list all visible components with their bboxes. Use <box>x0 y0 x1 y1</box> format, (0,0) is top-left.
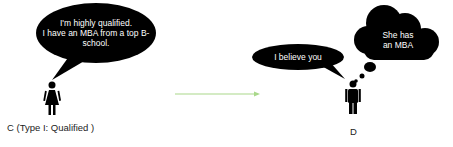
man-icon <box>345 81 361 115</box>
speech-text-c: I'm highly qualified. I have an MBA from… <box>40 18 152 48</box>
woman-icon <box>43 82 61 116</box>
label-c: C (Type I: Qualified ) <box>7 122 94 133</box>
speech-text-d: I believe you <box>254 52 342 62</box>
arrow-right-icon <box>175 92 260 97</box>
label-d: D <box>350 126 357 137</box>
speech-line: I'm highly qualified. <box>40 18 152 28</box>
thought-line: She has <box>370 30 426 40</box>
thought-line: an MBA <box>370 40 426 50</box>
speech-line: school. <box>40 38 152 48</box>
speech-line: I have an MBA from a top B- <box>40 28 152 38</box>
thought-text-d: She has an MBA <box>370 30 426 50</box>
